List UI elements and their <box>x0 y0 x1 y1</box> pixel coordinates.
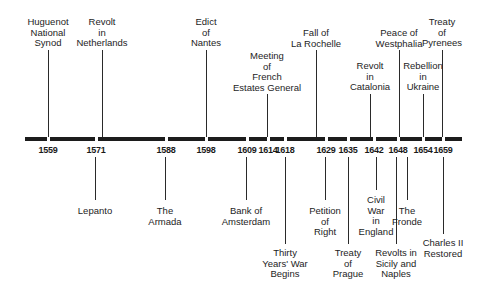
year-label: 1659 <box>433 145 452 155</box>
timeline-axis-segment <box>50 137 95 141</box>
event-label-above: Peace of Westphalia <box>376 28 423 49</box>
event-leader-line <box>325 157 326 200</box>
year-label: 1618 <box>275 145 294 155</box>
event-leader-line <box>246 157 247 200</box>
event-leader-line <box>407 157 408 200</box>
event-leader-line <box>102 50 103 137</box>
timeline-axis-segment <box>249 137 267 141</box>
year-label: 1654 <box>413 145 432 155</box>
timeline-axis-segment <box>376 137 397 141</box>
event-label-above: Meeting of French Estates General <box>233 51 301 93</box>
year-label: 1598 <box>196 145 215 155</box>
year-label: 1648 <box>388 145 407 155</box>
year-label: 1629 <box>316 145 335 155</box>
event-label-above: Treaty of Pyrenees <box>422 17 462 49</box>
year-label: 1642 <box>364 145 383 155</box>
event-label-below: Revolts in Sicily and Naples <box>375 248 417 280</box>
timeline-axis-segment <box>400 137 422 141</box>
year-label: 1559 <box>38 145 57 155</box>
event-label-below: The Armada <box>148 206 181 227</box>
event-label-below: The Fronde <box>392 206 422 227</box>
year-label: 1609 <box>237 145 256 155</box>
event-leader-line <box>316 50 317 137</box>
timeline-axis-segment <box>25 137 47 141</box>
event-leader-line <box>348 157 349 244</box>
event-label-above: Huguenot National Synod <box>27 17 68 49</box>
event-label-below: Petition of Right <box>309 206 341 238</box>
timeline-axis-segment <box>287 137 325 141</box>
event-leader-line <box>399 50 400 137</box>
event-leader-line <box>443 157 444 234</box>
timeline-axis-segment <box>270 137 284 141</box>
year-label: 1588 <box>156 145 175 155</box>
timeline-axis-segment <box>328 137 347 141</box>
timeline-axis-segment <box>98 137 165 141</box>
timeline-axis-segment <box>168 137 205 141</box>
year-label: 1571 <box>86 145 105 155</box>
timeline-axis-segment <box>445 137 463 141</box>
event-label-below: Civil War in England <box>359 195 394 237</box>
event-leader-line <box>376 157 377 190</box>
event-leader-line <box>370 94 371 137</box>
event-leader-line <box>48 50 49 137</box>
event-label-below: Thirty Years' War Begins <box>262 248 307 280</box>
event-leader-line <box>206 50 207 137</box>
event-label-below: Charles II Restored <box>423 238 464 259</box>
event-leader-line <box>396 157 397 244</box>
event-label-below: Bank of Amsterdam <box>222 206 271 227</box>
event-leader-line <box>95 157 96 200</box>
event-leader-line <box>267 94 268 137</box>
timeline-diagram: 1559157115881598160916141618162916351642… <box>0 0 486 293</box>
event-leader-line <box>165 157 166 200</box>
year-label: 1635 <box>338 145 357 155</box>
event-label-below: Lepanto <box>78 206 112 217</box>
event-label-above: Rebellion in Ukraine <box>403 61 443 93</box>
event-label-above: Fall of La Rochelle <box>291 28 341 49</box>
timeline-axis-segment <box>208 137 246 141</box>
timeline-axis-segment <box>425 137 442 141</box>
event-label-above: Revolt in Netherlands <box>76 17 127 49</box>
timeline-axis-segment <box>350 137 373 141</box>
event-label-below: Treaty of Prague <box>333 248 364 280</box>
event-leader-line <box>442 50 443 137</box>
event-label-above: Revolt in Catalonia <box>350 61 390 93</box>
event-leader-line <box>285 157 286 244</box>
event-leader-line <box>423 94 424 137</box>
event-label-above: Edict of Nantes <box>191 17 221 49</box>
